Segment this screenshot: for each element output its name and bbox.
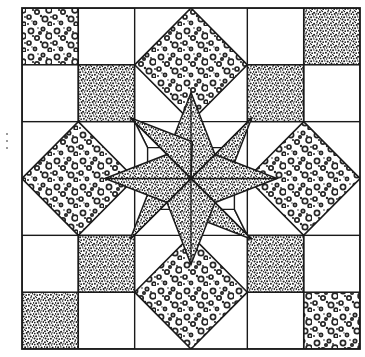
plain-square-bottom-left-over [22,235,78,292]
scan-speck-left-upper [6,133,8,135]
plain-square-bottom-right-over [304,235,360,292]
plain-square-top-right-under [304,65,360,122]
scan-speck-left-mid [6,140,8,142]
scan-speck-left-lower [6,147,8,149]
plain-square-top-right-inner [247,8,303,65]
quilt-diagram-page [0,0,365,357]
corner-square-bottom-right [304,292,360,349]
corner-square-top-right [304,8,360,65]
plain-square-top-left-under [22,65,78,122]
plain-square-top-left-inner [78,8,134,65]
plain-square-bottom-left-inner [78,292,134,349]
corner-square-bottom-left [22,292,78,349]
dark-square-lower-right [247,235,303,292]
star-center-seams [105,93,277,265]
dark-square-lower-left [78,235,134,292]
corner-square-top-left [22,8,78,65]
quilt-block-drawing [0,0,365,357]
dark-square-upper-left [78,65,134,122]
plain-square-bottom-right-inner [247,292,303,349]
dark-square-upper-right [247,65,303,122]
